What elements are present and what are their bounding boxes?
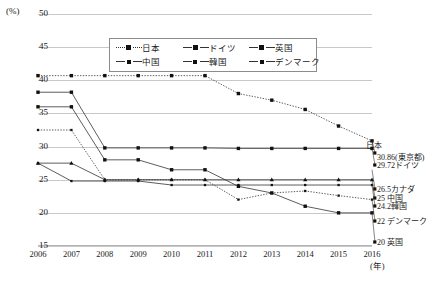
legend-marker-icon [116,57,142,67]
gridline [38,147,372,148]
label-marker [373,204,376,207]
label-leader-line [372,180,375,198]
legend-item-英国[interactable]: 英国 [249,41,316,55]
label-leader-line [372,213,375,242]
label-leader-line [372,170,375,189]
gridline [38,80,372,81]
annotation-korea: 24.2韓国 [377,202,407,211]
annotation-germany: 29.72ドイツ [377,161,419,170]
gridline [38,213,372,214]
legend-marker-icon [183,43,209,53]
chart-legend: 日本ドイツ英国中国韓国デンマーク [109,38,317,72]
legend-marker-icon [249,57,275,67]
label-leader-line [372,185,375,206]
label-marker [373,240,376,243]
x-axis-tick-label: 2016 [352,250,392,259]
legend-item-韓国[interactable]: 韓国 [183,55,250,69]
annotation-denmark: 22 デンマーク [377,217,427,226]
legend-item-label: 英国 [275,41,293,55]
y-axis-tick-label: 45 [22,42,48,51]
legend-item-日本[interactable]: 日本 [116,41,183,55]
annotation-japan: 日本 [366,141,382,150]
y-axis-tick-label: 25 [22,175,48,184]
y-axis-unit-label: (%) [6,6,20,16]
legend-marker-icon [183,57,209,67]
label-marker [373,187,376,190]
annotation-canada: 26.5カナダ [377,185,415,194]
legend-item-label: 日本 [142,41,160,55]
label-leader-line [372,148,375,165]
label-marker [373,151,376,154]
legend-marker-icon [116,43,142,53]
label-marker [373,196,376,199]
legend-item-label: デンマーク [275,55,320,69]
label-marker [373,163,376,166]
y-axis-tick-label: 30 [22,142,48,151]
legend-item-label: ドイツ [209,41,236,55]
gridline [38,14,372,15]
legend-item-ドイツ[interactable]: ドイツ [183,41,250,55]
legend-item-label: 韓国 [209,55,227,69]
gridline [38,246,372,247]
y-axis-tick-label: 40 [22,75,48,84]
x-axis-unit-label: (年) [370,262,385,271]
legend-item-label: 中国 [142,55,160,69]
gridline [38,113,372,114]
legend-item-デンマーク[interactable]: デンマーク [249,55,316,69]
label-leader-line [372,200,375,221]
label-marker [373,219,376,222]
y-axis-tick-label: 20 [22,208,48,217]
gridline [38,180,372,181]
annotation-uk: 20 英国 [377,238,403,247]
legend-marker-icon [249,43,275,53]
y-axis-tick-label: 50 [22,9,48,18]
legend-item-中国[interactable]: 中国 [116,55,183,69]
y-axis-tick-label: 35 [22,108,48,117]
